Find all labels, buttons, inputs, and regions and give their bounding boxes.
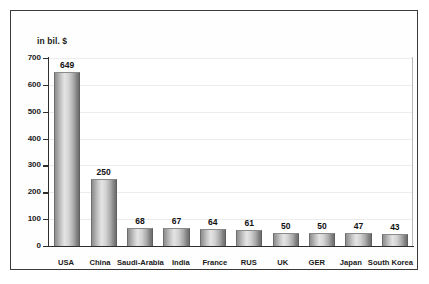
x-label-slot: RUS bbox=[232, 251, 266, 269]
x-label-slot: France bbox=[198, 251, 232, 269]
bar-slot: 68 bbox=[122, 58, 158, 246]
x-label-slot: India bbox=[164, 251, 198, 269]
bar-value-label: 43 bbox=[377, 222, 413, 232]
x-label-slot: Japan bbox=[334, 251, 368, 269]
bar-value-label: 250 bbox=[85, 167, 121, 177]
bar-slot: 250 bbox=[85, 58, 121, 246]
x-axis-category-label: GER bbox=[309, 258, 325, 267]
bar-value-label: 47 bbox=[340, 221, 376, 231]
y-axis-tick-label: 700 bbox=[28, 53, 41, 62]
x-axis-category-label: France bbox=[202, 258, 227, 267]
bar-slot: 67 bbox=[158, 58, 194, 246]
bar[interactable] bbox=[200, 229, 226, 246]
bar-slot: 64 bbox=[195, 58, 231, 246]
bar-slot: 61 bbox=[231, 58, 267, 246]
bar[interactable] bbox=[91, 179, 117, 246]
x-axis-category-label: India bbox=[172, 258, 190, 267]
x-axis-category-label: RUS bbox=[241, 258, 257, 267]
y-axis-tick-label: 600 bbox=[28, 80, 41, 89]
bar-value-label: 649 bbox=[49, 60, 85, 70]
x-axis-category-label: UK bbox=[277, 258, 288, 267]
bar[interactable] bbox=[127, 228, 153, 246]
x-axis-category-label: South Korea bbox=[368, 258, 413, 267]
x-axis-category-label: China bbox=[89, 258, 110, 267]
bar-value-label: 68 bbox=[122, 216, 158, 226]
x-label-slot: GER bbox=[300, 251, 334, 269]
x-label-slot: China bbox=[83, 251, 117, 269]
bar[interactable] bbox=[382, 234, 408, 246]
x-axis-tick-labels: USAChinaSaudi-ArabiaIndiaFranceRUSUKGERJ… bbox=[49, 251, 413, 269]
y-axis-tick bbox=[43, 85, 48, 86]
bar-series: 6492506867646150504743 bbox=[49, 58, 413, 246]
bar-slot: 649 bbox=[49, 58, 85, 246]
y-axis-tick bbox=[43, 246, 48, 247]
x-label-slot: USA bbox=[49, 251, 83, 269]
bar[interactable] bbox=[345, 233, 371, 246]
y-axis-tick bbox=[43, 165, 48, 166]
bar-slot: 43 bbox=[377, 58, 413, 246]
y-axis-tick-label: 0 bbox=[37, 241, 41, 250]
y-axis-tick bbox=[43, 112, 48, 113]
bar[interactable] bbox=[54, 72, 80, 246]
bar[interactable] bbox=[273, 233, 299, 246]
bar-slot: 50 bbox=[304, 58, 340, 246]
x-label-slot: Saudi-Arabia bbox=[117, 251, 164, 269]
y-axis-tick-labels: 0100200300400500600700 bbox=[11, 11, 41, 284]
bar[interactable] bbox=[163, 228, 189, 246]
y-axis-tick bbox=[43, 192, 48, 193]
y-axis-tick-label: 300 bbox=[28, 160, 41, 169]
y-axis-tick bbox=[43, 219, 48, 220]
y-axis-tick-label: 400 bbox=[28, 134, 41, 143]
y-axis-tick-label: 500 bbox=[28, 107, 41, 116]
bar-value-label: 61 bbox=[231, 218, 267, 228]
bar[interactable] bbox=[309, 233, 335, 246]
x-axis-category-label: Saudi-Arabia bbox=[117, 258, 164, 267]
x-axis-category-label: USA bbox=[58, 258, 74, 267]
y-axis-tick bbox=[43, 139, 48, 140]
bar-value-label: 64 bbox=[195, 217, 231, 227]
bar-value-label: 67 bbox=[158, 216, 194, 226]
bar-value-label: 50 bbox=[304, 221, 340, 231]
y-axis-tick-label: 200 bbox=[28, 187, 41, 196]
y-axis-tick-label: 100 bbox=[28, 214, 41, 223]
x-label-slot: South Korea bbox=[368, 251, 413, 269]
bar[interactable] bbox=[236, 230, 262, 246]
bar-slot: 47 bbox=[340, 58, 376, 246]
x-label-slot: UK bbox=[266, 251, 300, 269]
y-axis-tick bbox=[43, 58, 48, 59]
bar-value-label: 50 bbox=[267, 221, 303, 231]
y-axis-unit-label: in bil. $ bbox=[37, 36, 67, 46]
bar-slot: 50 bbox=[267, 58, 303, 246]
x-axis-line bbox=[48, 246, 414, 247]
chart-frame: in bil. $ 0100200300400500600700 6492506… bbox=[10, 10, 418, 270]
x-axis-category-label: Japan bbox=[340, 258, 362, 267]
